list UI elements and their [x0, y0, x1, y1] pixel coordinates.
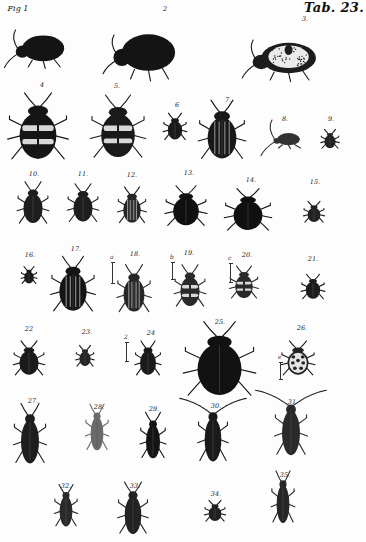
scale-bar	[112, 262, 113, 284]
scale-reference-letter: b	[170, 253, 174, 260]
scale-reference-letter: e	[278, 353, 282, 360]
beetle-illustration-icon	[71, 185, 95, 225]
beetle-illustration-icon	[170, 187, 202, 229]
figure-number-label: 31.	[288, 398, 298, 406]
figure-number-label: 26.	[297, 324, 307, 332]
beetle-figure-13	[170, 187, 202, 229]
beetle-illustration-icon	[78, 346, 92, 368]
figure-number-label: 23.	[82, 328, 92, 336]
figure-number-label: 24	[147, 329, 155, 337]
beetle-illustration-icon	[21, 183, 45, 227]
beetle-figure-20	[233, 267, 255, 301]
beetle-figure-12	[121, 188, 143, 226]
beetle-figure-22	[17, 342, 41, 378]
beetle-illustration-icon	[142, 415, 164, 461]
scale-bar	[280, 362, 281, 380]
figure-number-label: 8.	[282, 115, 288, 123]
engraving-plate: Tab. 23. Fig 123.45.67.8.9.10.11.12.13.1…	[0, 0, 366, 542]
beetle-illustration-icon	[277, 397, 305, 459]
beetle-illustration-icon	[56, 487, 76, 529]
scale-reference-letter: 2	[124, 333, 128, 340]
figure-number-label: 6	[175, 101, 179, 109]
beetle-figure-15	[306, 202, 322, 224]
figure-number-label: 21.	[308, 255, 318, 263]
beetle-illustration-icon	[120, 485, 146, 537]
beetle-illustration-icon	[110, 31, 180, 79]
beetle-figure-28	[87, 407, 107, 453]
beetle-figure-24	[138, 342, 158, 378]
figure-number-label: 3.	[302, 15, 308, 23]
beetle-illustration-icon	[97, 97, 139, 163]
beetle-figure-3	[249, 40, 321, 80]
beetle-figure-16	[23, 267, 35, 285]
figure-number-label: 32.	[61, 482, 71, 490]
scale-reference-letter: a	[110, 253, 114, 260]
beetle-figure-18	[121, 266, 147, 316]
figure-number-label: 22	[25, 325, 33, 333]
figure-number-label: 7.	[225, 96, 231, 104]
beetle-illustration-icon	[304, 275, 322, 301]
beetle-illustration-icon	[138, 342, 158, 378]
beetle-illustration-icon	[200, 405, 226, 465]
figure-number-label: 11.	[78, 170, 88, 178]
beetle-figure-27	[16, 407, 44, 467]
beetle-figure-34	[207, 501, 223, 523]
beetle-figure-7	[204, 102, 240, 164]
figure-number-label: 28.	[94, 403, 104, 411]
beetle-illustration-icon	[56, 258, 90, 316]
figure-number-label: 4	[40, 81, 44, 89]
beetle-figure-26	[285, 342, 311, 378]
beetle-figure-4	[15, 95, 61, 165]
plate-title: Tab. 23.	[304, 0, 364, 15]
beetle-figure-1	[13, 33, 68, 67]
beetle-illustration-icon	[15, 95, 61, 165]
figure-number-label: 13.	[184, 169, 194, 177]
beetle-figure-14	[230, 190, 266, 234]
beetle-illustration-icon	[204, 102, 240, 164]
beetle-figure-35	[273, 474, 293, 526]
figure-number-label: 35.	[280, 471, 290, 479]
figure-number-label: 10.	[29, 170, 39, 178]
beetle-illustration-icon	[323, 130, 337, 150]
beetle-illustration-icon	[233, 267, 255, 301]
beetle-figure-9	[323, 130, 337, 150]
beetle-figure-30	[200, 405, 226, 465]
beetle-illustration-icon	[207, 501, 223, 523]
figure-number-label: 2	[163, 5, 167, 13]
scale-bar	[172, 262, 173, 280]
figure-number-label: 9.	[328, 115, 334, 123]
beetle-illustration-icon	[17, 342, 41, 378]
figure-number-label: 27.	[28, 397, 38, 405]
figure-number-label: Fig 1	[8, 4, 29, 13]
scale-bar	[230, 263, 231, 283]
figure-number-label: 25.	[215, 318, 225, 326]
figure-number-label: 19.	[184, 249, 194, 257]
figure-number-label: 5.	[114, 82, 120, 90]
beetle-figure-25	[192, 324, 247, 402]
beetle-illustration-icon	[178, 266, 202, 310]
beetle-illustration-icon	[23, 267, 35, 285]
figure-number-label: 29.	[149, 405, 159, 413]
beetle-illustration-icon	[166, 114, 184, 142]
figure-number-label: 12.	[127, 171, 137, 179]
beetle-illustration-icon	[121, 188, 143, 226]
beetle-figure-23	[78, 346, 92, 368]
beetle-figure-11	[71, 185, 95, 225]
figure-number-label: 17.	[71, 245, 81, 253]
beetle-illustration-icon	[230, 190, 266, 234]
beetle-illustration-icon	[249, 40, 321, 80]
beetle-illustration-icon	[192, 324, 247, 402]
figure-number-label: 20.	[242, 251, 252, 259]
beetle-figure-33	[120, 485, 146, 537]
beetle-figure-10	[21, 183, 45, 227]
beetle-figure-29	[142, 415, 164, 461]
beetle-figure-32	[56, 487, 76, 529]
beetle-illustration-icon	[272, 132, 302, 148]
figure-number-label: 16.	[25, 251, 35, 259]
figure-number-label: 14.	[246, 176, 256, 184]
beetle-illustration-icon	[121, 266, 147, 316]
figure-number-label: 33.	[130, 482, 140, 490]
scale-reference-letter: c	[228, 254, 231, 261]
beetle-illustration-icon	[306, 202, 322, 224]
beetle-figure-8	[272, 132, 302, 148]
